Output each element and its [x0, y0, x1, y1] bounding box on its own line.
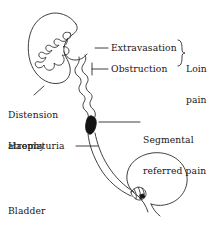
- renal-pelvis: [64, 52, 87, 60]
- label-haematuria: Haematuria: [8, 141, 65, 151]
- label-loin-pain-line2: pain: [186, 95, 207, 105]
- label-bladder-line1: Bladder: [8, 206, 105, 216]
- label-distension-line1: Distension: [8, 110, 58, 120]
- dilated-ureter-upper: [82, 55, 95, 117]
- label-bladder-irritation: Bladder irritation, frequency oedema of …: [8, 185, 105, 234]
- kidney-ureter-diagram: Extravasation Obstruction Loin pain Dist…: [0, 0, 222, 234]
- label-segmental-line2: referred pain: [143, 166, 206, 176]
- label-segmental-referred-pain: Segmental referred pain: [143, 114, 206, 197]
- kidney-outline: [28, 13, 77, 84]
- ureteric-stone: [86, 116, 97, 134]
- label-obstruction: Obstruction: [111, 64, 167, 74]
- bladder-neck: [138, 196, 160, 216]
- ureter-lower-right: [95, 133, 134, 192]
- label-loin-pain-line1: Loin: [186, 64, 207, 74]
- label-extravasation: Extravasation: [111, 43, 177, 53]
- curly-brace-grouping: [178, 40, 185, 66]
- dilated-calyces: [35, 32, 71, 70]
- label-distension-atrophy: Distension atrophy: [8, 89, 58, 172]
- label-segmental-line1: Segmental: [143, 135, 206, 145]
